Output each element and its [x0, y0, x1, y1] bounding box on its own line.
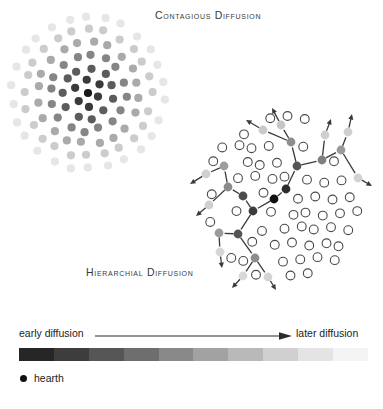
hierarchial-open-dot — [334, 242, 343, 251]
hierarchial-open-dot — [344, 226, 353, 235]
hierarchial-open-dot — [286, 271, 295, 280]
hierarchial-open-dot — [313, 253, 322, 262]
hierarchial-open-dot — [280, 172, 289, 181]
hierarchial-open-dot — [252, 270, 261, 279]
hearth-node — [270, 195, 279, 204]
hierarchial-arrowhead-icon — [348, 114, 353, 120]
gradient-swatch-8 — [298, 348, 333, 361]
legend-later-diffusion-label: later diffusion — [296, 327, 358, 339]
hierarchial-open-dot — [247, 144, 256, 153]
hierarchial-open-dot — [235, 141, 244, 150]
hierarchial-node — [321, 131, 330, 140]
hierarchial-open-dot — [294, 194, 303, 203]
contagious-diffusion-title: Contagious Diffusion — [155, 9, 261, 21]
hierarchial-open-dot — [267, 207, 276, 216]
hierarchial-open-dot — [240, 130, 249, 139]
hierarchial-open-dot — [300, 115, 309, 124]
hierarchial-node — [205, 201, 214, 210]
hierarchial-open-dot — [251, 172, 260, 181]
hierarchial-open-dot — [266, 114, 275, 123]
hierarchial-node — [282, 185, 291, 194]
hierarchial-edge — [343, 137, 346, 146]
hierarchial-open-dot — [296, 255, 305, 264]
hierarchial-open-dot — [243, 158, 252, 167]
hierarchial-open-dot — [320, 178, 329, 187]
hierarchial-open-dot — [270, 240, 279, 249]
hierarchial-open-dot — [234, 174, 243, 183]
hierarchial-edge — [233, 190, 239, 194]
hierarchial-node — [234, 230, 243, 239]
hierarchial-edge — [277, 193, 281, 197]
hierarchial-node — [354, 174, 363, 183]
hierarchial-node — [251, 254, 260, 263]
gradient-swatch-1 — [54, 348, 89, 361]
hierarchial-edge — [258, 201, 270, 208]
gradient-swatch-2 — [89, 348, 124, 361]
hierarchial-node — [220, 162, 229, 171]
hierarchial-edge — [241, 215, 251, 230]
gradient-swatch-9 — [333, 348, 368, 361]
hierarchial-open-dot — [289, 210, 298, 219]
diffusion-figure: Contagious Diffusion Hierarchial Diffusi… — [0, 0, 383, 409]
hierarchial-node — [293, 162, 302, 171]
hierarchial-open-dot — [311, 192, 320, 201]
hierarchial-open-dot — [309, 225, 318, 234]
gradient-swatch-4 — [159, 348, 194, 361]
hierarchial-open-dot — [330, 256, 339, 265]
hierarchial-edge — [301, 161, 316, 165]
hierarchial-open-dot — [227, 253, 236, 262]
hierarchial-open-dot — [255, 161, 264, 170]
gradient-swatch-0 — [19, 348, 54, 361]
hierarchial-node — [287, 138, 296, 147]
hierarchial-open-dot — [258, 227, 267, 236]
hierarchial-arrowhead-icon — [219, 262, 224, 268]
hierarchial-edge — [343, 154, 355, 173]
gradient-swatch-5 — [193, 348, 228, 361]
hierarchial-open-dot — [303, 175, 312, 184]
gradient-swatch-6 — [228, 348, 263, 361]
hierarchial-open-dot — [279, 257, 288, 266]
hierarchial-open-dot — [259, 188, 268, 197]
hierarchial-open-dot — [305, 241, 314, 250]
hierarchial-open-dot — [299, 142, 308, 151]
hierarchial-open-dot — [280, 224, 289, 233]
hierarchial-edge — [211, 168, 220, 172]
hierarchial-edge — [292, 147, 296, 161]
hierarchial-node — [249, 207, 258, 216]
hierarchial-open-dot — [248, 237, 257, 246]
hierarchial-open-dot — [273, 158, 282, 167]
diffusion-direction-arrow-icon — [95, 331, 293, 341]
diffusion-gradient-bar — [19, 348, 368, 361]
hierarchial-open-dot — [206, 218, 215, 227]
hierarchial-node — [277, 121, 286, 130]
hierarchial-node — [259, 126, 268, 135]
hierarchial-open-dot — [268, 175, 277, 184]
hierarchial-open-dot — [328, 195, 337, 204]
hierarchial-node — [239, 272, 248, 281]
hierarchial-open-dot — [336, 209, 345, 218]
gradient-swatch-7 — [263, 348, 298, 361]
hierarchial-edge — [246, 201, 250, 208]
hierarchial-node — [239, 192, 248, 201]
hierarchial-open-dot — [232, 207, 241, 216]
legend-hearth-label: hearth — [34, 372, 64, 384]
hierarchial-open-dot — [207, 190, 216, 199]
legend-early-diffusion-label: early diffusion — [19, 327, 84, 339]
hierarchial-open-dot — [288, 238, 297, 247]
hierarchial-open-dot — [322, 239, 331, 248]
hierarchial-node — [337, 146, 346, 155]
hierarchial-node — [344, 128, 353, 137]
hierarchial-open-dot — [239, 256, 248, 265]
gradient-swatch-3 — [124, 348, 159, 361]
hierarchial-edge — [268, 132, 287, 140]
hierarchial-open-dot — [209, 157, 218, 166]
hierarchial-node — [224, 183, 233, 192]
hierarchial-diffusion-title: Hierarchial Diffusion — [86, 266, 193, 278]
hierarchial-open-dot — [301, 208, 310, 217]
hierarchial-node — [202, 170, 211, 179]
hierarchial-open-dot — [330, 157, 339, 166]
hierarchial-open-dot — [345, 193, 354, 202]
hierarchial-edge — [225, 172, 227, 183]
hierarchial-open-dot — [327, 223, 336, 232]
hearth-legend-dot-icon — [20, 375, 27, 382]
